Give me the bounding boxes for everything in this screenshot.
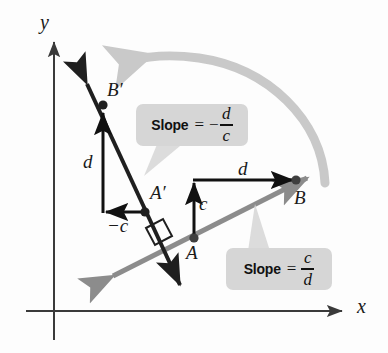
callout-negative-prefix: Slope <box>151 117 188 133</box>
diagram-canvas <box>0 0 388 353</box>
segment-d-up-label: d <box>83 152 93 171</box>
segment-d-right-label: d <box>238 159 248 178</box>
callout-slope-positive: Slope = c d <box>226 248 332 290</box>
point-A-prime-label: A′ <box>150 183 166 202</box>
point-B-prime-dot <box>98 100 107 109</box>
callout-negative-fraction: d c <box>220 105 233 144</box>
point-B-prime-label: B′ <box>107 80 123 99</box>
callout-tail-positive <box>248 204 270 251</box>
x-axis-label: x <box>357 296 366 316</box>
callout-negative-numerator: d <box>220 105 233 123</box>
callout-positive-denominator: d <box>302 271 315 289</box>
callout-positive-prefix: Slope <box>244 261 281 277</box>
callout-negative-sign: − <box>209 115 219 135</box>
geometry-figure: y x A B A′ B′ c d d −c Slope = − d c Slo… <box>0 0 388 353</box>
y-axis-label: y <box>40 12 49 32</box>
point-A-prime-dot <box>140 207 149 216</box>
callout-tail-negative <box>144 141 186 176</box>
callout-negative-denominator: c <box>220 127 232 145</box>
segment-neg-c-label: −c <box>107 216 128 235</box>
callout-positive-fraction: c d <box>301 249 314 288</box>
point-B-label: B <box>294 188 306 207</box>
callout-positive-equals: = <box>287 259 297 279</box>
segment-c-label: c <box>199 194 207 213</box>
callout-negative-equals: = <box>194 115 204 135</box>
point-B-dot <box>291 175 300 184</box>
callout-positive-numerator: c <box>302 249 314 267</box>
point-A-label: A <box>186 243 198 262</box>
callout-slope-negative: Slope = − d c <box>136 104 248 146</box>
